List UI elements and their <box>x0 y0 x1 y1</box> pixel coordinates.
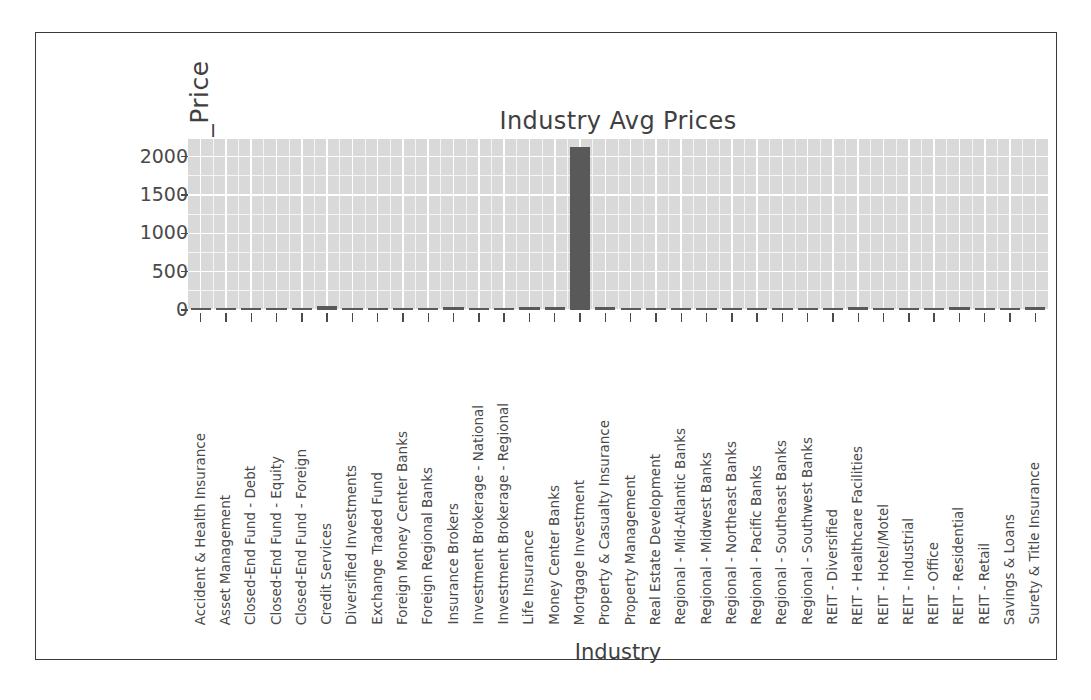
x-tick-mark <box>908 313 909 322</box>
chart-frame: Industry Avg Prices Industry_Avg_Price 0… <box>35 32 1057 660</box>
gridline-vertical-minor <box>618 139 619 310</box>
y-tick-label: 0 <box>118 298 188 320</box>
gridline-vertical-minor <box>592 139 593 310</box>
x-tick-mark <box>959 313 960 322</box>
gridline-vertical-minor <box>719 139 720 310</box>
chart-title: Industry Avg Prices <box>188 107 1048 135</box>
gridline-vertical-major <box>731 139 733 310</box>
gridline-vertical-major <box>706 139 708 310</box>
x-tick-mark <box>681 313 682 322</box>
gridline-vertical-major <box>453 139 455 310</box>
x-tick-label: Surety & Title Insurance <box>1028 462 1042 625</box>
gridline-vertical-major <box>276 139 278 310</box>
x-tick-mark <box>858 313 859 322</box>
gridline-vertical-major <box>503 139 505 310</box>
x-tick-mark <box>428 313 429 322</box>
x-tick-label: Investment Brokerage - National <box>472 405 486 625</box>
gridline-vertical-major <box>478 139 480 310</box>
gridline-vertical-minor <box>972 139 973 310</box>
x-tick-mark <box>933 313 934 322</box>
gridline-vertical-major <box>782 139 784 310</box>
x-tick-label: Regional - Pacific Banks <box>750 465 764 625</box>
x-tick-mark <box>402 313 403 322</box>
gridline-vertical-minor <box>921 139 922 310</box>
gridline-vertical-major <box>756 139 758 310</box>
x-tick-label: REIT - Retail <box>978 543 992 625</box>
y-axis: 0500100015002000 <box>102 139 188 310</box>
x-tick-mark <box>352 313 353 322</box>
x-tick-label: REIT - Industrial <box>902 518 916 625</box>
gridline-vertical-minor <box>542 139 543 310</box>
gridline-vertical-minor <box>1022 139 1023 310</box>
gridline-vertical-major <box>832 139 834 310</box>
gridline-vertical-major <box>377 139 379 310</box>
x-tick-label: Regional - Northeast Banks <box>725 441 739 625</box>
gridline-vertical-minor <box>693 139 694 310</box>
x-tick-label: REIT - Hotel/Motel <box>877 504 891 625</box>
y-tick-label: 500 <box>118 260 188 282</box>
x-axis-title: Industry <box>188 640 1048 664</box>
gridline-vertical-minor <box>440 139 441 310</box>
x-tick-label: REIT - Residential <box>952 507 966 625</box>
gridline-vertical-major <box>554 139 556 310</box>
y-tick-mark <box>181 233 188 235</box>
x-tick-label: REIT - Diversified <box>826 509 840 625</box>
x-tick-label: REIT - Office <box>927 542 941 625</box>
x-tick-mark <box>579 313 580 322</box>
gridline-vertical-minor <box>289 139 290 310</box>
x-tick-mark <box>883 313 884 322</box>
plot-panel <box>188 139 1048 310</box>
gridline-vertical-major <box>933 139 935 310</box>
x-tick-label: Foreign Regional Banks <box>421 467 435 625</box>
gridline-vertical-major <box>959 139 961 310</box>
x-tick-mark <box>478 313 479 322</box>
gridline-vertical-minor <box>668 139 669 310</box>
y-tick-mark <box>181 156 188 158</box>
x-tick-label: Closed-End Fund - Foreign <box>295 449 309 625</box>
gridline-vertical-major <box>630 139 632 310</box>
gridline-vertical-minor <box>795 139 796 310</box>
gridline-vertical-minor <box>415 139 416 310</box>
gridline-vertical-major <box>1009 139 1011 310</box>
x-tick-label: Regional - Mid-Atlantic Banks <box>674 428 688 625</box>
x-axis-ticks <box>188 310 1048 324</box>
x-tick-label: Diversified Investments <box>345 465 359 625</box>
x-tick-label: Insurance Brokers <box>447 503 461 625</box>
x-tick-mark <box>276 313 277 322</box>
gridline-vertical-major <box>680 139 682 310</box>
gridline-vertical-minor <box>643 139 644 310</box>
x-tick-mark <box>225 313 226 322</box>
gridline-vertical-minor <box>820 139 821 310</box>
gridline-vertical-minor <box>845 139 846 310</box>
x-tick-mark <box>529 313 530 322</box>
x-tick-label: Savings & Loans <box>1003 514 1017 625</box>
x-tick-label: Closed-End Fund - Debt <box>244 466 258 625</box>
x-tick-label: Foreign Money Center Banks <box>396 431 410 625</box>
x-tick-label: Money Center Banks <box>548 485 562 625</box>
gridline-vertical-minor <box>491 139 492 310</box>
gridline-vertical-minor <box>896 139 897 310</box>
gridline-vertical-major <box>427 139 429 310</box>
gridline-vertical-minor <box>339 139 340 310</box>
x-tick-label: Real Estate Development <box>649 454 663 625</box>
gridline-vertical-major <box>250 139 252 310</box>
x-tick-mark <box>731 313 732 322</box>
x-tick-label: Regional - Midwest Banks <box>700 452 714 625</box>
gridline-vertical-minor <box>870 139 871 310</box>
y-tick-mark <box>181 309 188 311</box>
gridline-vertical-major <box>200 139 202 310</box>
y-tick-mark <box>181 194 188 196</box>
x-tick-mark <box>301 313 302 322</box>
x-axis-labels: Accident & Health InsuranceAsset Managem… <box>188 325 1048 625</box>
gridline-vertical-minor <box>946 139 947 310</box>
gridline-vertical-major <box>402 139 404 310</box>
x-tick-mark <box>782 313 783 322</box>
x-tick-mark <box>554 313 555 322</box>
y-tick-label: 1500 <box>118 183 188 205</box>
gridline-vertical-major <box>352 139 354 310</box>
gridline-vertical-major <box>883 139 885 310</box>
x-tick-label: Exchange Traded Fund <box>371 472 385 625</box>
x-tick-label: Property Management <box>624 475 638 625</box>
gridline-vertical-minor <box>516 139 517 310</box>
gridline-vertical-minor <box>213 139 214 310</box>
